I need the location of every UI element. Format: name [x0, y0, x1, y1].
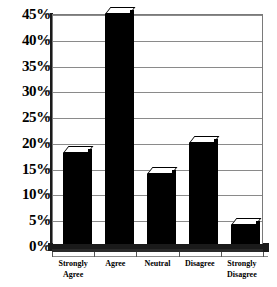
gridline — [53, 118, 262, 119]
x-axis-tick-mark — [52, 252, 53, 257]
y-axis-tick-mark — [44, 220, 52, 221]
gridline — [53, 15, 262, 16]
y-axis-tick-mark — [44, 117, 52, 118]
bar-side-face — [256, 221, 260, 245]
bar — [231, 224, 256, 245]
gridline — [53, 41, 262, 42]
x-axis-tick-mark — [94, 252, 95, 257]
y-axis-tick-mark — [44, 14, 52, 15]
gridline — [53, 144, 262, 145]
y-axis-tick-mark — [44, 194, 52, 195]
axis-corner-right — [263, 243, 269, 252]
y-axis-tick-mark — [44, 142, 52, 143]
bar — [189, 142, 214, 245]
x-axis-tick-mark — [263, 252, 264, 257]
x-axis-category-label: Strongly Disagree — [217, 258, 267, 280]
y-axis-tick-mark — [44, 39, 52, 40]
x-axis-tick-mark — [179, 252, 180, 257]
bar — [63, 152, 88, 245]
y-axis-tick-mark — [44, 65, 52, 66]
y-axis-tick-mark — [44, 91, 52, 92]
plot-area — [52, 14, 263, 246]
bar — [147, 173, 172, 245]
bar-side-face — [130, 10, 134, 245]
gridline — [53, 67, 262, 68]
y-axis-tick-mark — [44, 168, 52, 169]
bar-chart: 45%40%35%30%25%20%15%10%5%0% Strongly Ag… — [0, 0, 277, 287]
x-axis-tick-mark — [136, 252, 137, 257]
baseline-shadow — [52, 249, 268, 252]
x-axis-tick-mark — [221, 252, 222, 257]
gridline — [53, 92, 262, 93]
bar-side-face — [172, 170, 176, 245]
x-axis-line — [52, 256, 268, 257]
bar — [105, 13, 130, 245]
bar-side-face — [214, 139, 218, 245]
bar-side-face — [88, 149, 92, 245]
